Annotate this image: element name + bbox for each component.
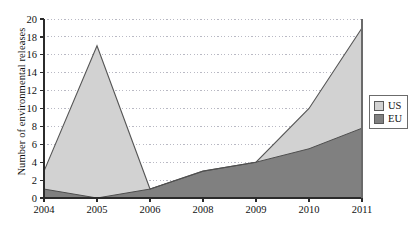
x-tick-label: 2005	[87, 204, 108, 215]
x-tick-label: 2010	[299, 204, 320, 215]
y-tick-label: 16	[27, 49, 38, 60]
y-tick-label: 14	[27, 67, 38, 78]
y-tick-label: 0	[32, 193, 37, 204]
y-tick-label: 4	[32, 157, 38, 168]
legend-item-us[interactable]: US	[374, 99, 402, 112]
plot-area: 02468101214161820 2004200520062008200920…	[0, 0, 420, 228]
x-tick-label: 2008	[193, 204, 214, 215]
y-tick-labels: 02468101214161820	[27, 14, 38, 204]
area-chart: Number of environmental releases 0246810…	[0, 0, 420, 228]
y-tick-label: 12	[27, 85, 38, 96]
x-tick-labels: 2004200520062008200920102011	[34, 204, 373, 215]
series-layers	[44, 28, 362, 198]
x-tick-label: 2006	[140, 204, 161, 215]
chart-legend: US EU	[369, 95, 408, 129]
y-tick-label: 20	[27, 14, 38, 25]
legend-swatch-us	[374, 101, 384, 111]
legend-swatch-eu	[374, 114, 384, 124]
x-tick-label: 2004	[34, 204, 56, 215]
legend-label-eu: EU	[388, 113, 402, 124]
y-tick-label: 8	[32, 121, 37, 132]
y-tick-label: 10	[27, 103, 38, 114]
y-tick-label: 6	[32, 139, 37, 150]
legend-label-us: US	[388, 100, 401, 111]
legend-item-eu[interactable]: EU	[374, 112, 402, 125]
y-tick-label: 18	[27, 32, 38, 43]
x-tick-label: 2009	[246, 204, 267, 215]
x-tick-marks	[44, 198, 362, 202]
x-tick-label: 2011	[352, 204, 373, 215]
y-tick-label: 2	[32, 175, 37, 186]
